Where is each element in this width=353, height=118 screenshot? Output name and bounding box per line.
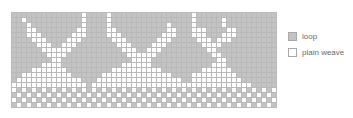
legend-item-plain-weave: plain weave (288, 47, 344, 58)
legend: loop plain weave (288, 31, 344, 58)
weave-grid-container (11, 12, 277, 108)
legend-item-loop: loop (288, 31, 344, 42)
plain-weave-swatch-icon (288, 48, 297, 57)
loop-swatch-icon (288, 32, 297, 41)
legend-item-label: loop (302, 32, 317, 41)
weave-grid (11, 12, 277, 108)
legend-item-label: plain weave (302, 48, 344, 57)
weave-draft-figure: loop plain weave (0, 0, 353, 118)
weave-grid-row (12, 103, 277, 108)
weave-cell-loop (272, 103, 277, 108)
weave-grid-body (12, 13, 277, 108)
